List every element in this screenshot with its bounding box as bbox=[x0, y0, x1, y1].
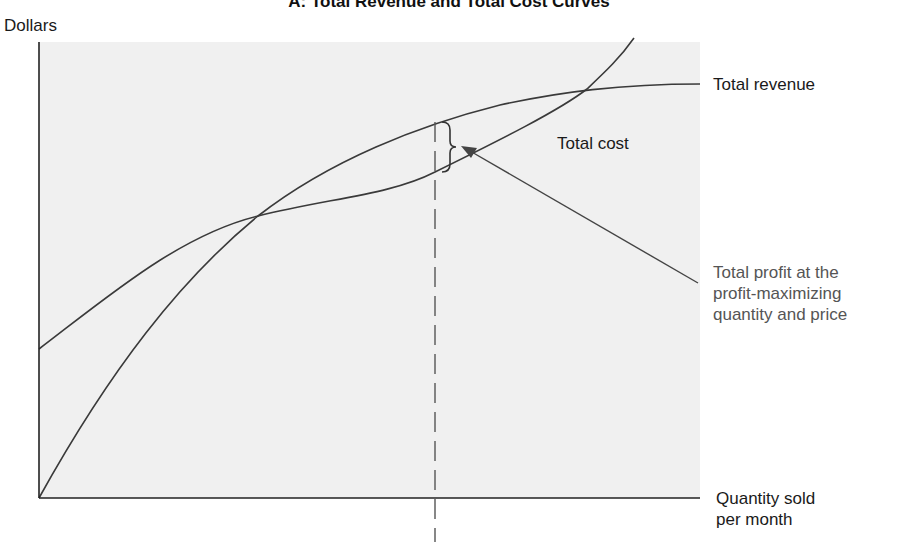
profit-annotation-line-3: quantity and price bbox=[713, 304, 847, 325]
profit-annotation-line-2: profit-maximizing bbox=[713, 283, 847, 304]
plot-background bbox=[39, 42, 700, 498]
x-axis-label-line-1: Quantity sold bbox=[716, 488, 815, 509]
total-revenue-label: Total revenue bbox=[713, 74, 815, 95]
x-axis-label-line-2: per month bbox=[716, 509, 815, 530]
profit-annotation-line-1: Total profit at the bbox=[713, 262, 847, 283]
total-cost-label: Total cost bbox=[557, 133, 629, 154]
x-axis-label: Quantity sold per month bbox=[716, 488, 815, 530]
profit-annotation: Total profit at the profit-maximizing qu… bbox=[713, 262, 847, 325]
